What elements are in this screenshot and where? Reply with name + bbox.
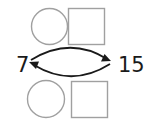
- right-number: 15: [118, 53, 144, 77]
- bottom-square-blank[interactable]: [72, 82, 108, 118]
- top-square-blank[interactable]: [69, 9, 105, 45]
- number-diagram: 7 15: [0, 0, 144, 136]
- top-circle-blank[interactable]: [32, 9, 68, 45]
- bottom-circle-blank[interactable]: [28, 81, 65, 118]
- backward-arrow: [34, 64, 110, 76]
- left-number: 7: [16, 53, 29, 77]
- forward-arrowhead-icon: [101, 54, 111, 62]
- forward-arrow: [31, 48, 107, 60]
